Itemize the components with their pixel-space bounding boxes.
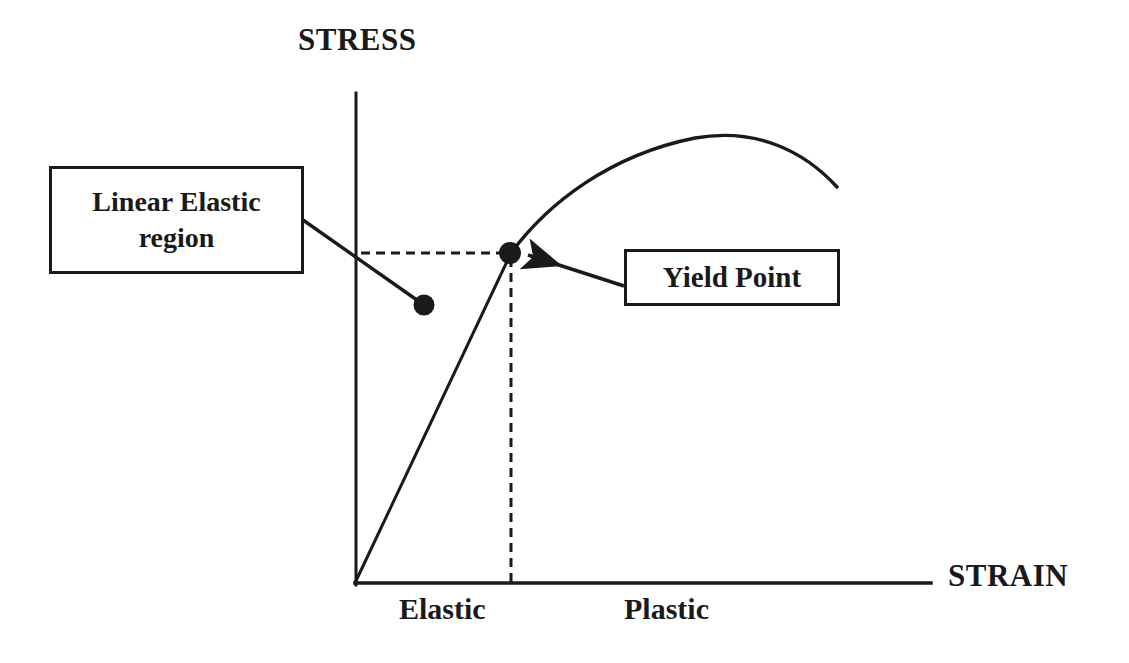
linear-elastic-leader-line [303,220,424,305]
stress-strain-diagram: STRESS STRAIN Elastic Plastic Linear Ela… [0,0,1129,663]
elastic-region-label: Elastic [399,592,486,626]
linear-elastic-marker-dot [414,295,435,316]
linear-elastic-callout-line2: region [86,220,266,256]
plastic-region-label: Plastic [624,592,709,626]
x-axis-title: STRAIN [948,558,1068,594]
yield-point-marker-dot [499,242,521,264]
y-axis-title: STRESS [298,22,416,58]
yield-point-arrow [528,255,624,286]
linear-elastic-callout-box: Linear Elastic region [49,166,304,274]
plastic-curve-segment [511,135,837,253]
linear-elastic-callout-line1: Linear Elastic [86,184,266,220]
yield-point-callout-box: Yield Point [624,249,840,306]
yield-point-callout-label: Yield Point [657,261,807,294]
